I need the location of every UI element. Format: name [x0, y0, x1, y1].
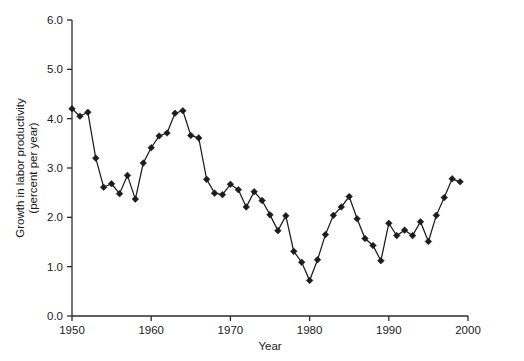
x-tick-label: 1970 — [218, 324, 244, 336]
y-tick-label: 4.0 — [47, 113, 63, 125]
y-tick-label: 6.0 — [47, 14, 63, 26]
y-tick-label: 0.0 — [47, 310, 63, 322]
y-axis-title-line2: (percent per year) — [27, 122, 39, 214]
x-tick-label: 1960 — [138, 324, 164, 336]
x-axis-title: Year — [258, 340, 281, 352]
y-tick-label: 1.0 — [47, 261, 63, 273]
chart-canvas: 0.01.02.03.04.05.06.0 195019601970198019… — [0, 0, 524, 361]
y-tick-label: 2.0 — [47, 211, 63, 223]
y-tick-label: 3.0 — [47, 162, 63, 174]
y-axis-title-line1: Growth in labor productivity — [14, 98, 26, 238]
x-tick-label: 1950 — [59, 324, 85, 336]
y-tick-label: 5.0 — [47, 63, 63, 75]
chart-background — [0, 0, 524, 361]
x-tick-label: 1990 — [376, 324, 402, 336]
x-tick-label: 2000 — [455, 324, 481, 336]
labor-productivity-chart: 0.01.02.03.04.05.06.0 195019601970198019… — [0, 0, 524, 361]
x-tick-label: 1980 — [297, 324, 323, 336]
